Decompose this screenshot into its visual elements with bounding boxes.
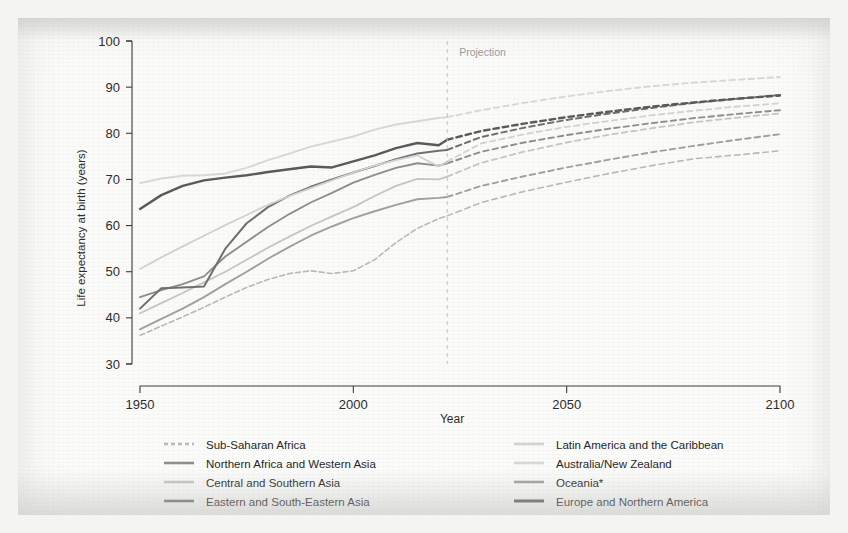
series-line-historical-6 <box>140 197 447 329</box>
y-axis-title: Life expectancy at birth (years) <box>75 149 87 306</box>
legend-label-left-1: Northern Africa and Western Asia <box>206 458 376 470</box>
legend-label-right-3: Europe and Northern America <box>556 496 709 508</box>
y-axis-spine <box>126 41 132 364</box>
series-line-projection-5 <box>447 77 780 117</box>
series-line-historical-5 <box>140 117 447 183</box>
y-tick-label: 100 <box>98 34 120 49</box>
y-tick-label: 30 <box>106 357 120 372</box>
series-line-historical-7 <box>140 140 447 209</box>
legend-label-left-3: Eastern and South-Eastern Asia <box>206 496 370 508</box>
chart-series-group <box>140 77 780 335</box>
scanned-figure-plate: 304050607080901001950200020502100 Sub-Sa… <box>18 18 830 515</box>
legend-label-left-0: Sub-Saharan Africa <box>206 439 306 451</box>
legend-label-right-1: Australia/New Zealand <box>556 458 672 470</box>
life-expectancy-line-chart: 304050607080901001950200020502100 Sub-Sa… <box>18 18 830 515</box>
projection-annotation-label: Projection <box>459 46 506 58</box>
y-tick-label: 70 <box>106 172 120 187</box>
tick-labels-group: 304050607080901001950200020502100 <box>98 34 794 413</box>
legend-label-right-2: Oceania* <box>556 477 604 489</box>
x-axis-spine <box>140 386 780 393</box>
x-tick-label: 1950 <box>126 397 155 412</box>
y-tick-label: 40 <box>106 310 120 325</box>
legend-label-left-2: Central and Southern Asia <box>206 477 341 489</box>
series-line-historical-3 <box>140 150 447 309</box>
x-tick-label: 2100 <box>766 397 795 412</box>
y-tick-label: 60 <box>106 218 120 233</box>
screenshot-page: 304050607080901001950200020502100 Sub-Sa… <box>0 0 848 533</box>
series-line-projection-0 <box>447 151 780 216</box>
x-tick-label: 2000 <box>339 397 368 412</box>
x-axis-title: Year <box>440 412 464 426</box>
y-tick-label: 90 <box>106 80 120 95</box>
x-tick-label: 2050 <box>552 397 581 412</box>
series-line-projection-6 <box>447 134 780 197</box>
legend-group: Sub-Saharan AfricaNorthern Africa and We… <box>164 439 724 508</box>
legend-label-right-0: Latin America and the Caribbean <box>556 439 724 451</box>
axes-group <box>126 41 780 393</box>
series-line-projection-2 <box>447 113 780 176</box>
y-tick-label: 50 <box>106 264 120 279</box>
y-tick-label: 80 <box>106 126 120 141</box>
